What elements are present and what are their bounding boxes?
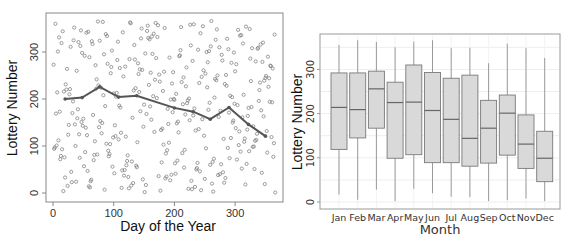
y-axis: 0100200300: [305, 60, 320, 205]
x-tick-label: 300: [226, 207, 244, 219]
trend-marker: [117, 95, 121, 99]
scatter-plot: 0100200300 0100200300 Day of the Year Lo…: [4, 13, 283, 234]
box-plot: 0100200300 JanFebMarAprMayJunJulAugSepOc…: [289, 34, 560, 237]
iqr-box: [537, 131, 553, 181]
y-axis-title: Lottery Number: [4, 59, 20, 156]
month-label: Nov: [517, 212, 536, 223]
x-axis-title: Month: [420, 222, 461, 237]
y-tick-label: 0: [305, 199, 316, 205]
trend-marker: [227, 106, 231, 110]
y-tick-label: 200: [28, 90, 40, 108]
iqr-box: [350, 73, 366, 138]
figure: 0100200300 0100200300 Day of the Year Lo…: [0, 0, 571, 247]
month-label: Mar: [367, 212, 385, 223]
trend-marker: [98, 85, 102, 89]
iqr-box: [387, 82, 403, 158]
scatter-plot-frame: [46, 13, 283, 202]
y-axis: 0100200300: [28, 43, 46, 196]
iqr-box: [499, 95, 515, 155]
trend-marker: [208, 117, 212, 121]
trend-marker: [247, 123, 251, 127]
y-tick-label: 0: [28, 190, 40, 196]
x-tick-label: 0: [50, 207, 56, 219]
y-axis-title: Lottery Number: [289, 73, 305, 170]
x-axis: 0100200300: [50, 202, 244, 219]
month-label: Sep: [480, 212, 498, 223]
iqr-box: [462, 75, 478, 166]
month-label: Jan: [331, 212, 347, 223]
iqr-box: [368, 71, 384, 128]
y-tick-label: 100: [305, 148, 316, 167]
trend-marker: [80, 96, 84, 100]
iqr-box: [481, 100, 497, 163]
trend-marker: [135, 94, 139, 98]
y-tick-label: 300: [305, 60, 316, 79]
month-label: Oct: [499, 212, 516, 223]
month-label: Aug: [461, 212, 480, 223]
trend-marker: [173, 106, 177, 110]
iqr-box: [331, 73, 347, 149]
trend-marker: [264, 134, 268, 138]
iqr-box: [443, 78, 459, 162]
y-tick-label: 300: [28, 43, 40, 61]
month-label: Feb: [349, 212, 366, 223]
y-tick-label: 200: [305, 104, 316, 123]
trend-marker: [191, 110, 195, 114]
trend-marker: [63, 97, 67, 101]
iqr-box: [425, 72, 441, 162]
y-tick-label: 100: [28, 137, 40, 155]
month-label: Apr: [387, 212, 404, 223]
iqr-box: [518, 115, 534, 168]
month-label: Dec: [536, 212, 554, 223]
x-axis-title: Day of the Year: [120, 218, 216, 234]
iqr-box: [406, 65, 422, 155]
